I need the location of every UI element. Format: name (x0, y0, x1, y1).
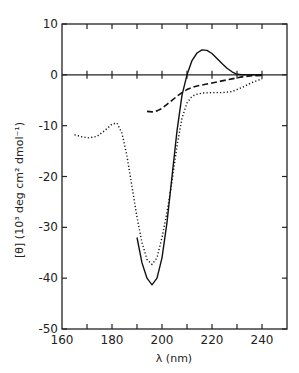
y-tick-label: -30 (38, 220, 58, 234)
x-tick-label: 240 (251, 333, 274, 347)
series-dotted (75, 79, 263, 265)
series-solid (137, 50, 262, 285)
y-tick-label: -10 (38, 119, 58, 133)
data-series (75, 50, 263, 285)
y-tick-label: -50 (38, 322, 58, 336)
y-tick-label: 10 (43, 17, 58, 31)
x-tick-label: 220 (201, 333, 224, 347)
y-axis-label: [θ] (10³ deg cm² dmol⁻¹) (13, 122, 26, 258)
x-tick-label: 180 (101, 333, 124, 347)
plot-axes (62, 24, 287, 329)
y-tick-label: -40 (38, 271, 58, 285)
axis-ticks: 160180200220240100-10-20-30-40-50 (38, 17, 287, 347)
x-tick-label: 200 (151, 333, 174, 347)
x-axis-label: λ (nm) (156, 352, 192, 365)
plot-frame (62, 24, 287, 329)
cd-spectrum-chart: 160180200220240100-10-20-30-40-50 λ (nm)… (0, 0, 299, 373)
series-dashed (147, 75, 262, 112)
y-tick-label: -20 (38, 170, 58, 184)
y-tick-label: 0 (50, 68, 58, 82)
